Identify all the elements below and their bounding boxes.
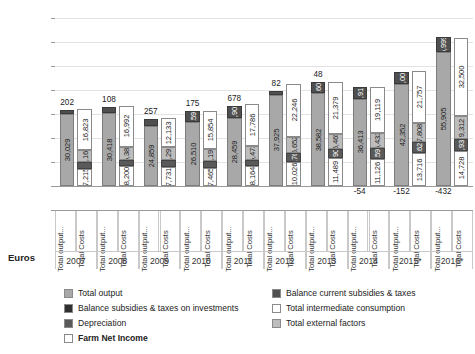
bar-total-costs-2012[interactable]: 10,0263,7626,65222,246 — [286, 18, 301, 210]
x-label-total-costs: Total Costs — [285, 211, 306, 251]
bar-total-output-2008[interactable]: 30,418 — [102, 18, 117, 210]
bar-segment: 4,607 — [311, 82, 326, 93]
bar-segment: 14,728 — [454, 151, 469, 186]
bar-value-label: 24,859 — [146, 145, 155, 168]
bar-segment: 5,999 — [436, 37, 451, 51]
legend-swatch-icon — [64, 319, 73, 328]
bar-segment: 4,917 — [353, 87, 368, 99]
bar-total-output-2013[interactable]: 38,5824,607 — [311, 18, 326, 210]
bar-segment — [77, 162, 92, 168]
x-label-total-output: Total output... — [55, 211, 76, 251]
x-axis-year-2010: 2010 — [180, 251, 222, 269]
bar-value-label: 5,473 — [247, 146, 256, 159]
bar-value-label: 7,215 — [80, 169, 89, 186]
bar-value-label: 5,193 — [206, 149, 215, 161]
legend-label: Farm Net Income — [78, 333, 148, 343]
bar-value-label: 11,489 — [331, 161, 340, 183]
x-label-total-output: Total output... — [97, 211, 118, 251]
bar-value-label: 8,164 — [247, 167, 256, 186]
y-tick-mark — [51, 138, 55, 139]
bar-segment: 30,418 — [102, 113, 117, 186]
legend-item[interactable]: Depreciation — [64, 318, 126, 328]
x-label-total-costs: Total Costs — [76, 211, 97, 251]
bar-segment — [269, 91, 284, 95]
bar-total-output-2016[interactable]: 55,9055,999 — [436, 18, 451, 210]
legend-label: Depreciation — [78, 318, 126, 328]
bar-segment: 6,433 — [370, 133, 385, 148]
bar-segment: 5,385 — [119, 147, 134, 160]
y-tick-mark — [51, 186, 55, 187]
legend-item[interactable]: Total external factors — [272, 318, 365, 328]
x-axis-year-2013: 2013 — [306, 251, 348, 269]
bar-segment: 4,932 — [454, 139, 469, 151]
bar-value-label: 4,607 — [313, 82, 322, 93]
chart-legend: Total outputBalance subsidies & taxes on… — [64, 288, 469, 350]
bar-segment: 10,026 — [286, 162, 301, 186]
bar-value-label: 6,433 — [373, 133, 382, 148]
gridline — [55, 162, 473, 163]
bar-total-costs-2015[interactable]: 13,7164,6207,80821,757 — [412, 18, 427, 210]
bar-value-label: 21,757 — [415, 86, 424, 109]
bar-segment: 11,126 — [370, 159, 385, 186]
x-axis-year-2011: 2011 — [222, 251, 264, 269]
bar-segment: 7,808 — [412, 123, 427, 142]
x-label-total-costs: Total Costs — [201, 211, 222, 251]
bar-total-costs-2010[interactable]: 7,4655,19315,854 — [203, 18, 218, 210]
bar-value-label: 13,716 — [415, 158, 424, 181]
legend-item[interactable]: Balance current subsidies & taxes — [272, 288, 415, 298]
bar-total-output-2014[interactable]: 36,4134,917 — [353, 18, 368, 210]
x-label-total-output: Total output... — [348, 211, 369, 251]
x-label-total-output: Total output... — [264, 211, 285, 251]
bar-total-costs-2007[interactable]: 7,2155,16616,823 — [77, 18, 92, 210]
bar-segment: 5,473 — [245, 146, 260, 159]
bar-segment: 32,500 — [454, 38, 469, 116]
bar-segment: 5,004 — [394, 72, 409, 84]
bar-segment: 38,582 — [311, 93, 326, 186]
bar-segment — [119, 160, 134, 167]
x-label-total-output: Total output... — [431, 211, 452, 251]
x-axis-year-2014: 2014 — [348, 251, 390, 269]
bar-value-label: 21,379 — [331, 97, 340, 120]
bar-total-output-2007[interactable]: 30,029 — [60, 18, 75, 210]
legend-item[interactable]: Farm Net Income — [64, 333, 148, 343]
bar-value-label: 36,413 — [355, 131, 364, 154]
bar-value-label: 37,925 — [272, 129, 281, 152]
bar-segment — [60, 110, 75, 114]
bar-value-label: 42,352 — [397, 124, 406, 147]
bar-value-label: 17,786 — [247, 114, 256, 137]
legend-item[interactable]: Total output — [64, 288, 122, 298]
bar-total-output-2012[interactable]: 37,925 — [269, 18, 284, 210]
y-axis-title: Euros — [8, 252, 35, 263]
gridline — [55, 114, 473, 115]
bar-value-label: 4,598 — [373, 148, 382, 159]
bar-total-costs-2016[interactable]: 14,7284,9329,31232,500 — [454, 18, 469, 210]
bar-segment: 15,854 — [203, 111, 218, 149]
bar-value-label: 32,500 — [456, 66, 465, 89]
x-label-total-costs: Total Costs — [327, 211, 348, 251]
legend-label: Total intermediate consumption — [286, 303, 405, 313]
legend-item[interactable]: Total intermediate consumption — [272, 303, 405, 313]
bar-segment: 8,200 — [119, 166, 134, 186]
bar-total-costs-2009[interactable]: 7,7315,29112,133 — [161, 18, 176, 210]
bar-segment — [245, 160, 260, 167]
bar-total-costs-2013[interactable]: 11,4893,9036,46521,379 — [328, 18, 343, 210]
x-label-total-output: Total output... — [306, 211, 327, 251]
legend-label: Total output — [78, 288, 122, 298]
bar-total-costs-2011[interactable]: 8,1645,47317,786 — [245, 18, 260, 210]
legend-item[interactable]: Balance subsidies & taxes on investments — [64, 303, 239, 313]
bar-value-label: 5,385 — [122, 147, 131, 160]
bar-total-costs-2014[interactable]: 11,1264,5986,43319,119 — [370, 18, 385, 210]
bar-value-label: 7,808 — [415, 123, 424, 142]
x-axis: Total output...Total Costs2007Total outp… — [55, 210, 473, 268]
bar-segment: 11,489 — [328, 158, 343, 186]
bar-total-output-2011[interactable]: 28,4594,902 — [227, 18, 242, 210]
y-tick-mark — [51, 90, 55, 91]
bar-value-label: 26,510 — [188, 143, 197, 166]
bar-value-label: 6,465 — [331, 134, 340, 150]
x-axis-year-2016: 2016* — [431, 251, 473, 269]
bar-total-output-2010[interactable]: 26,5104,594 — [185, 18, 200, 210]
gridline — [55, 90, 473, 91]
y-tick-mark — [51, 18, 55, 19]
bar-segment — [102, 107, 117, 113]
bar-total-output-2015[interactable]: 42,3525,004 — [394, 18, 409, 210]
